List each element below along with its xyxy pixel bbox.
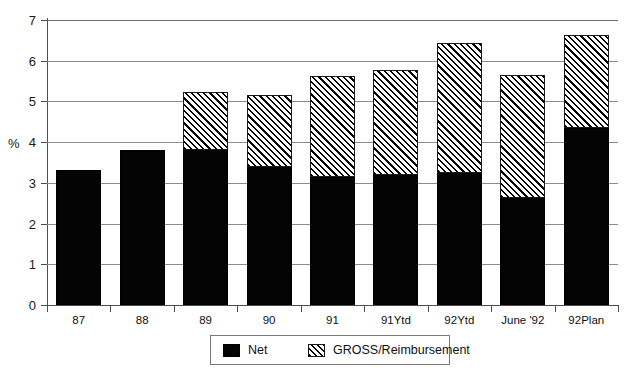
bar-segment-gross bbox=[183, 92, 228, 150]
bar-segment-gross bbox=[247, 95, 292, 167]
legend-entry-1: GROSS/Reimbursement bbox=[308, 342, 470, 359]
solid-black-swatch bbox=[223, 344, 240, 357]
y-tick-label-6: 6 bbox=[16, 55, 36, 68]
bar-segment-gross bbox=[564, 35, 609, 128]
bar-segment-net bbox=[373, 175, 418, 305]
x-tick-label-87: 87 bbox=[47, 314, 110, 326]
x-tick-mark-4 bbox=[364, 305, 365, 312]
bar-segment-net bbox=[564, 128, 609, 305]
bar-group-89 bbox=[183, 20, 228, 305]
x-tick-mark-3 bbox=[301, 305, 302, 312]
x-tick-mark-0 bbox=[110, 305, 111, 312]
x-tick-label-89: 89 bbox=[174, 314, 237, 326]
x-tick-mark-8 bbox=[618, 305, 619, 312]
x-tick-label-91: 91 bbox=[301, 314, 364, 326]
x-tick-label-June92: June '92 bbox=[491, 314, 554, 326]
bar-group-88 bbox=[120, 20, 165, 305]
bar-group-90 bbox=[247, 20, 292, 305]
x-tick-label-91Ytd: 91Ytd bbox=[364, 314, 427, 326]
chart-legend: NetGROSS/Reimbursement bbox=[210, 335, 450, 365]
bar-segment-net bbox=[247, 167, 292, 305]
y-tick-label-4: 4 bbox=[16, 136, 36, 149]
y-tick-label-0: 0 bbox=[16, 299, 36, 312]
plot-area bbox=[47, 20, 618, 305]
bar-group-92Plan bbox=[564, 20, 609, 305]
bar-segment-gross bbox=[373, 70, 418, 175]
x-tick-mark-1 bbox=[174, 305, 175, 312]
legend-label-1: GROSS/Reimbursement bbox=[333, 344, 470, 357]
bar-segment-net bbox=[56, 170, 101, 305]
bar-chart: % 01234567 878889909191Ytd92YtdJune '929… bbox=[0, 0, 630, 374]
bar-segment-gross bbox=[500, 75, 545, 198]
bar-group-91 bbox=[310, 20, 355, 305]
bar-segment-gross bbox=[310, 76, 355, 177]
legend-entry-0: Net bbox=[223, 342, 267, 359]
legend-label-0: Net bbox=[248, 344, 267, 357]
x-tick-mark-5 bbox=[428, 305, 429, 312]
y-tick-label-2: 2 bbox=[16, 218, 36, 231]
x-tick-label-92Ytd: 92Ytd bbox=[428, 314, 491, 326]
bar-segment-net bbox=[500, 198, 545, 305]
x-tick-label-88: 88 bbox=[110, 314, 173, 326]
y-tick-label-7: 7 bbox=[16, 14, 36, 27]
diagonal-hatch-swatch bbox=[308, 344, 325, 357]
bar-group-June92 bbox=[500, 20, 545, 305]
bar-segment-net bbox=[310, 177, 355, 305]
bar-group-91Ytd bbox=[373, 20, 418, 305]
x-tick-mark-origin bbox=[47, 305, 48, 312]
x-tick-label-92Plan: 92Plan bbox=[555, 314, 618, 326]
y-tick-label-3: 3 bbox=[16, 177, 36, 190]
bar-segment-net bbox=[437, 173, 482, 305]
y-tick-label-1: 1 bbox=[16, 258, 36, 271]
bar-segment-net bbox=[120, 150, 165, 305]
bar-segment-net bbox=[183, 150, 228, 305]
x-tick-mark-6 bbox=[491, 305, 492, 312]
x-tick-mark-2 bbox=[237, 305, 238, 312]
y-tick-label-5: 5 bbox=[16, 95, 36, 108]
x-tick-mark-7 bbox=[555, 305, 556, 312]
x-tick-label-90: 90 bbox=[237, 314, 300, 326]
bar-group-92Ytd bbox=[437, 20, 482, 305]
x-axis-line bbox=[47, 305, 618, 306]
bar-group-87 bbox=[56, 20, 101, 305]
bar-segment-gross bbox=[437, 43, 482, 172]
